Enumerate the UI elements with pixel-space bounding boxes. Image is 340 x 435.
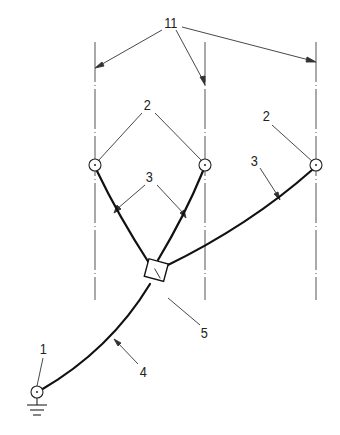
arrowhead-icon bbox=[306, 57, 316, 62]
ground-terminal bbox=[27, 386, 47, 415]
label-main-lead: 4 bbox=[140, 364, 147, 379]
branch-lead-middle bbox=[158, 171, 203, 260]
label-branch-right: 3 bbox=[251, 153, 258, 168]
label-branch-left: 3 bbox=[146, 169, 153, 184]
label-conductors: 11 bbox=[164, 15, 177, 30]
arrowhead-icon bbox=[95, 62, 104, 68]
leader-1 bbox=[37, 358, 43, 386]
leader-3 bbox=[114, 168, 280, 218]
label-ground-terminal: 1 bbox=[40, 341, 47, 356]
branch-lead-left bbox=[97, 171, 149, 263]
leader-5 bbox=[168, 298, 200, 325]
label-junction: 5 bbox=[201, 325, 208, 340]
junction-box bbox=[144, 259, 168, 282]
grounding-diagram bbox=[0, 0, 340, 435]
label-node-left: 2 bbox=[144, 97, 151, 112]
branch-lead-right bbox=[166, 170, 312, 266]
label-node-right: 2 bbox=[263, 108, 270, 123]
arrowhead-icon bbox=[200, 76, 205, 85]
leader-4 bbox=[114, 339, 138, 364]
